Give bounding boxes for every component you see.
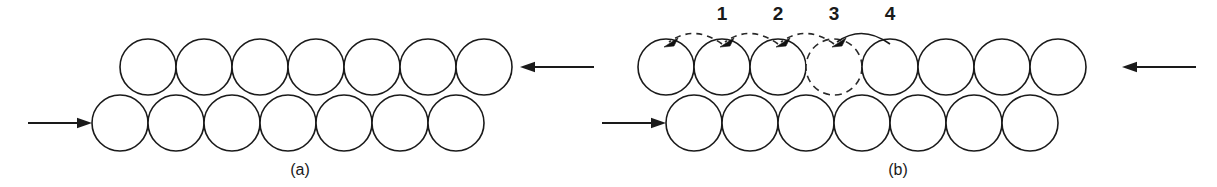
atom: [1030, 39, 1086, 95]
atom: [260, 95, 316, 151]
atom: [456, 39, 512, 95]
panel-b-upper-shear-arrow: [1122, 62, 1196, 72]
atom: [428, 95, 484, 151]
atom: [694, 39, 750, 95]
hop-label-4: 4: [885, 3, 896, 24]
hop-label-3: 3: [829, 3, 840, 24]
panel-a: (a): [28, 39, 594, 178]
atom: [92, 95, 148, 151]
atom: [638, 39, 694, 95]
arrow-head: [1122, 62, 1137, 72]
panel-a-lower-shear-arrow: [28, 118, 92, 128]
panel-label-b: (b): [888, 161, 908, 178]
atom: [834, 95, 890, 151]
atom: [148, 95, 204, 151]
atom: [778, 95, 834, 151]
atom: [1002, 95, 1058, 151]
panel-label-a: (a): [290, 161, 310, 178]
atom-vacated: [806, 39, 862, 95]
panel-a-upper-shear-arrow: [520, 62, 594, 72]
atom: [722, 95, 778, 151]
atom: [232, 39, 288, 95]
atom: [316, 95, 372, 151]
panel-b: 1234(b): [602, 3, 1196, 178]
hop-label-1: 1: [717, 3, 728, 24]
atom: [666, 95, 722, 151]
atom: [918, 39, 974, 95]
panel-a-bottom-row: [92, 95, 484, 151]
slip-dislocation-figure: (a)1234(b): [0, 0, 1217, 187]
atom: [862, 39, 918, 95]
panel-a-top-row: [120, 39, 512, 95]
atom: [120, 39, 176, 95]
atom: [344, 39, 400, 95]
atom: [176, 39, 232, 95]
arrow-head: [520, 62, 535, 72]
atom: [946, 95, 1002, 151]
hop-label-2: 2: [773, 3, 784, 24]
atom: [890, 95, 946, 151]
atom: [288, 39, 344, 95]
arrow-head: [651, 118, 666, 128]
atom: [204, 95, 260, 151]
arrow-head: [77, 118, 92, 128]
atom: [400, 39, 456, 95]
atom: [372, 95, 428, 151]
atom: [974, 39, 1030, 95]
figure-canvas: (a)1234(b): [0, 0, 1217, 187]
panel-b-top-row: [638, 39, 1086, 95]
panel-b-bottom-row: [666, 95, 1058, 151]
panel-b-lower-shear-arrow: [602, 118, 666, 128]
atom: [750, 39, 806, 95]
